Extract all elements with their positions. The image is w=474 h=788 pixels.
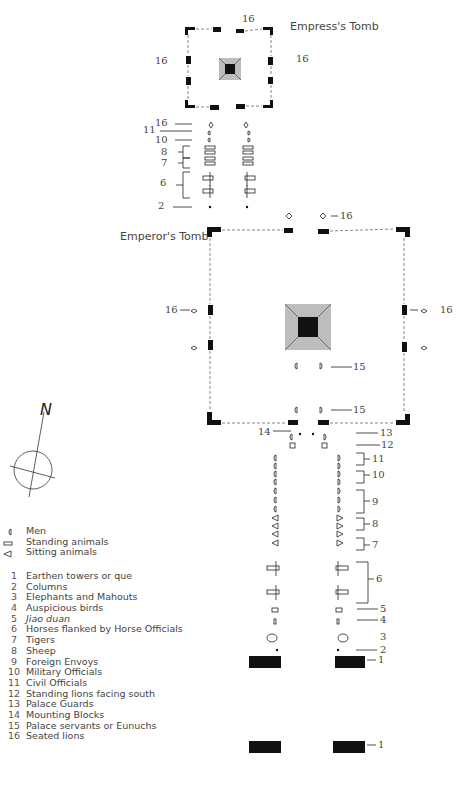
earthen-tower-1-left <box>249 656 281 668</box>
legend-items: 1Earthen towers or que 2Columns 3Elephan… <box>6 571 183 742</box>
earthen-tower-1-right <box>335 656 365 668</box>
emperor-pyramid <box>285 304 331 350</box>
emperor-corner-se <box>396 414 410 425</box>
emperor-label-16-right: 16 <box>440 305 453 315</box>
empress-path-label: 2 <box>158 201 164 211</box>
earthen-tower-2-left <box>249 741 281 753</box>
legend-item: 8Sheep <box>6 646 183 657</box>
emperor-path-label: 12 <box>381 440 394 450</box>
emperor-path-label: 4 <box>380 615 386 625</box>
empress-corner-sw <box>185 100 195 108</box>
emperor-path-label: 1 <box>378 740 384 750</box>
empress-path-label: 7 <box>161 158 167 168</box>
empress-path-label: 16 <box>155 118 168 128</box>
emperor-path-label: 7 <box>372 540 378 550</box>
emperor-label-15: 15 <box>353 362 366 372</box>
emperor-label-14: 14 <box>258 427 271 437</box>
emperor-path-label: 5 <box>380 604 386 614</box>
emperor-label-16-top: 16 <box>340 211 353 221</box>
empress-tomb-title: Empress's Tomb <box>290 20 379 33</box>
emperor-label-16-left: 16 <box>165 305 178 315</box>
emperor-path-label: 6 <box>376 574 382 584</box>
emperor-corner-sw <box>207 412 221 425</box>
legend-symbols: Men Standing animals Sitting animals <box>6 526 109 558</box>
emperor-path-label: 13 <box>380 428 393 438</box>
emperor-corner-nw <box>207 227 221 237</box>
empress-path-label: 10 <box>155 135 168 145</box>
emperor-path-label: 8 <box>372 519 378 529</box>
earthen-tower-2-right <box>333 741 365 753</box>
empress-path-label: 11 <box>143 125 156 135</box>
empress-path-label: 6 <box>160 178 166 188</box>
legend-item: 16Seated lions <box>6 731 183 742</box>
empress-label-16-right: 16 <box>296 54 309 64</box>
legend-item: 11Civil Officials <box>6 678 183 689</box>
empress-label-16-top: 16 <box>242 14 255 24</box>
emperor-tomb-title: Emperor's Tomb <box>120 230 208 243</box>
empress-label-16-left: 16 <box>155 56 168 66</box>
emperor-path-label: 9 <box>372 497 378 507</box>
emperor-corner-ne <box>396 227 410 237</box>
empress-corner-nw <box>185 27 195 35</box>
emperor-label-15: 15 <box>353 405 366 415</box>
emperor-path-label: 11 <box>372 454 385 464</box>
emperor-path-label: 3 <box>380 632 386 642</box>
empress-path-label: 8 <box>161 147 167 157</box>
legend-symbol-sitting: Sitting animals <box>6 547 109 558</box>
compass-north-label: N <box>40 400 52 419</box>
empress-corner-ne <box>263 27 273 35</box>
emperor-statue-columns <box>267 455 348 642</box>
empress-corner-se <box>263 100 273 108</box>
empress-pyramid <box>219 58 241 80</box>
empress-statue-columns <box>203 122 255 198</box>
emperor-path-label: 1 <box>378 655 384 665</box>
emperor-path-label: 10 <box>372 470 385 480</box>
compass-rose <box>10 412 55 497</box>
